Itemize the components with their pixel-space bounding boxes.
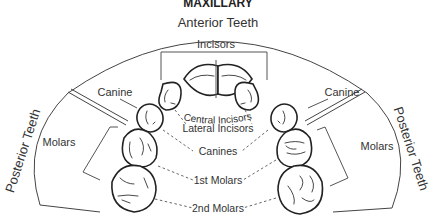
lateral-incisor-right — [235, 82, 259, 110]
maxillary-dentition-diagram: MAXILLARY Anterior Teeth Posterior Teeth… — [0, 0, 435, 224]
second-molar-left — [112, 165, 156, 212]
incisors-label: Incisors — [197, 38, 235, 50]
canine-right-label: Canine — [325, 86, 360, 98]
molars-left-bracket — [83, 127, 118, 180]
lateral-incisors-label: Lateral Incisors — [182, 122, 253, 134]
lateral-incisor-left — [159, 82, 181, 110]
molars-right-label: Molars — [360, 140, 394, 152]
central-incisor-left — [184, 65, 218, 96]
posterior-teeth-right-label: Posterior Teeth — [391, 105, 432, 193]
anterior-teeth-label: Anterior Teeth — [178, 15, 259, 30]
canine-left-label: Canine — [98, 86, 133, 98]
posterior-teeth-left-label: Posterior Teeth — [2, 107, 43, 195]
first-molar-right — [277, 129, 312, 167]
canine-right-leader — [308, 99, 328, 108]
canine-left-leader — [120, 99, 137, 108]
second-molar-right — [278, 165, 323, 214]
canines-label: Canines — [199, 145, 238, 157]
molars-left-label: Molars — [42, 136, 76, 148]
second-molars-label: 2nd Molars — [192, 202, 244, 214]
first-molars-label: 1st Molars — [194, 174, 242, 186]
first-molar-left — [122, 129, 157, 167]
posterior-left-arc — [34, 93, 100, 212]
diagram-title: MAXILLARY — [183, 0, 253, 10]
posterior-right-arc — [333, 93, 401, 212]
molars-right-bracket — [317, 127, 348, 186]
